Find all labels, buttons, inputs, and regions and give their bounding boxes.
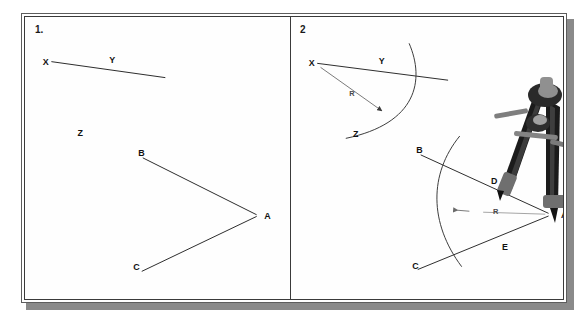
ray-ac [418, 216, 548, 269]
label-point-b: B [138, 148, 145, 158]
panel-2: 2 [290, 17, 563, 299]
label-point-x: X [43, 57, 49, 67]
label-point-y: Y [379, 56, 385, 66]
label-point-z: Z [353, 129, 359, 139]
line-xy [52, 62, 165, 78]
figure-frame-inner: 1. X Y Z B A C 2 [24, 16, 564, 300]
panel-1: 1. X Y Z B A C [25, 17, 290, 299]
ray-ac [142, 217, 256, 272]
ray-ab [421, 155, 548, 213]
panel-1-drawing: X Y Z B A C [25, 17, 290, 299]
label-point-a: A [264, 211, 271, 221]
label-point-c: C [412, 261, 419, 271]
label-point-b: B [416, 145, 422, 155]
label-point-a: A [561, 210, 563, 220]
arc-from-a [437, 136, 462, 266]
ray-ab [143, 158, 256, 215]
label-point-c: C [133, 262, 140, 272]
label-radius-x: R [349, 89, 355, 98]
label-point-z: Z [78, 128, 84, 138]
cut-off-text-above-figure: · · · [0, 0, 578, 11]
label-point-y: Y [109, 55, 115, 65]
label-point-d: D [491, 176, 498, 186]
panel-2-drawing: R R X Y Z B D A E C [290, 17, 563, 299]
label-radius-a: R [493, 207, 499, 216]
label-point-e: E [502, 242, 508, 252]
figure-frame-outer: 1. X Y Z B A C 2 [21, 13, 567, 303]
figure-root: · · · 1. X Y Z B A C [0, 0, 578, 321]
label-point-x: X [309, 58, 315, 68]
radius-arrow-head-a [458, 210, 470, 211]
